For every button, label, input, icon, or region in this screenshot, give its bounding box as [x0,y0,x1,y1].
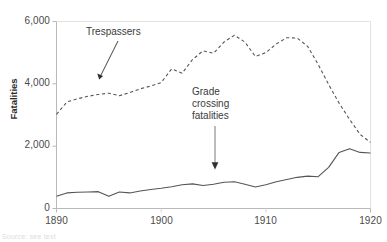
x-tick-label-1900: 1900 [141,215,182,226]
y-tick-label-6000: 6,000 [8,15,50,26]
source-note: Source: see text [2,233,56,240]
x-axis-ticks [57,209,371,213]
grade-crossing-label-line-2: crossing [192,98,229,110]
trespassers-annotation-label: Trespassers [86,26,141,38]
grade-crossing-annotation-label: Grade crossing fatalities [192,86,229,122]
x-tick-label-1920: 1920 [350,215,387,226]
grade-crossing-label-line-1: Grade [192,86,229,98]
grade-crossing-arrow [212,126,219,170]
y-axis-title-wrapper: Fatalities [8,64,22,134]
series-grade-crossing-line [57,149,371,197]
y-tick-label-2000: 2,000 [8,139,50,150]
y-axis-ticks [53,22,57,209]
y-tick-label-4000: 4,000 [8,77,50,88]
x-tick-label-1890: 1890 [36,215,77,226]
x-tick-label-1910: 1910 [245,215,286,226]
trespassers-arrow [97,41,118,80]
y-tick-label-0: 0 [8,202,50,213]
y-axis-title: Fatalities [8,64,19,134]
grade-crossing-label-line-3: fatalities [192,110,229,122]
